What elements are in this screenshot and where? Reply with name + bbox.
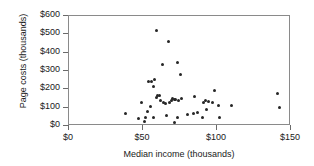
data-point <box>124 112 127 115</box>
x-axis-tick-label: $0 <box>46 132 90 142</box>
data-point <box>201 116 204 119</box>
y-axis-tick-label: $500 <box>14 27 60 37</box>
data-point <box>179 73 182 76</box>
data-point <box>164 102 167 105</box>
data-point <box>186 113 189 116</box>
data-point <box>176 61 179 64</box>
data-point <box>211 101 214 104</box>
data-point <box>146 110 149 113</box>
data-point <box>153 78 156 81</box>
y-axis-tick-label: $0 <box>14 119 60 129</box>
data-point <box>155 29 158 32</box>
data-point <box>152 116 155 119</box>
y-axis-tick-label: $400 <box>14 46 60 56</box>
plot-area <box>68 15 290 125</box>
x-axis-tick <box>142 125 143 130</box>
x-axis-tick <box>68 125 69 130</box>
x-axis-tick-label: $100 <box>194 132 238 142</box>
data-point <box>276 92 279 95</box>
y-axis-tick-label: $600 <box>14 9 60 19</box>
data-point <box>176 116 179 119</box>
x-axis-tick-label: $150 <box>268 132 312 142</box>
data-point <box>152 85 155 88</box>
y-axis-tick-label: $300 <box>14 64 60 74</box>
data-point <box>173 121 176 124</box>
data-point <box>192 112 195 115</box>
data-point <box>278 106 281 109</box>
data-point <box>143 120 146 123</box>
data-point <box>196 111 199 114</box>
data-point <box>193 95 196 98</box>
y-axis-tick-label: $200 <box>14 82 60 92</box>
x-axis-tick <box>216 125 217 130</box>
data-point <box>144 116 147 119</box>
y-axis-tick-label: $100 <box>14 101 60 111</box>
data-point <box>137 117 140 120</box>
data-point <box>218 116 221 119</box>
data-point <box>158 94 161 97</box>
data-point <box>140 101 143 104</box>
data-point <box>205 108 208 111</box>
x-axis-tick-label: $50 <box>120 132 164 142</box>
x-axis-title: Median income (thousands) <box>68 149 290 159</box>
data-point <box>180 97 183 100</box>
data-point <box>161 63 164 66</box>
data-point <box>165 114 168 117</box>
data-point <box>167 40 170 43</box>
data-point <box>207 100 210 103</box>
scatter-chart-screenshot: Page costs (thousands) $0$100$200$300$40… <box>0 0 314 166</box>
data-point <box>149 105 152 108</box>
data-point <box>217 104 220 107</box>
data-point <box>213 89 216 92</box>
data-point <box>230 104 233 107</box>
x-axis-tick <box>290 125 291 130</box>
